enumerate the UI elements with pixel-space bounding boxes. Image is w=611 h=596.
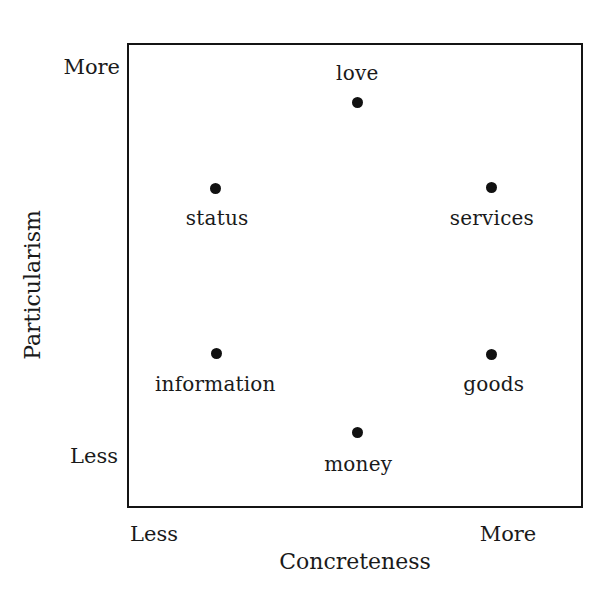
y-axis-title: Particularism [22,210,44,360]
data-label-status: status [186,208,249,228]
plot-area: love status services information goods m… [127,43,583,508]
data-point-love[interactable] [352,97,363,108]
data-label-services: services [450,208,534,228]
x-axis-title: Concreteness [279,551,431,573]
scatter-plot-figure: Particularism More Less love status serv… [0,0,611,596]
y-axis-tick-more: More [20,57,120,78]
data-point-services[interactable] [486,182,497,193]
data-label-money: money [324,454,392,474]
y-axis-tick-less: Less [20,446,118,467]
x-axis-tick-less: Less [130,524,178,545]
data-label-goods: goods [463,374,524,394]
data-point-goods[interactable] [486,349,497,360]
data-point-money[interactable] [352,427,363,438]
data-point-information[interactable] [211,348,222,359]
data-point-status[interactable] [210,183,221,194]
x-axis-tick-more: More [480,524,537,545]
data-label-information: information [155,374,276,394]
data-label-love: love [336,63,378,83]
